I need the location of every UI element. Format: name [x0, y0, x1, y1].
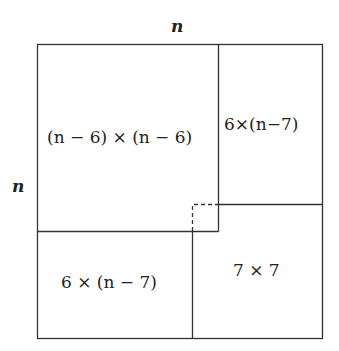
outer-square [38, 45, 323, 339]
dashed-corner [193, 205, 219, 232]
left-side-label: n [12, 178, 24, 195]
region-bottom-left-label: 6 × (n − 7) [61, 274, 157, 291]
region-bottom-right-label: 7 × 7 [233, 262, 280, 279]
region-top-left-label: (n − 6) × (n − 6) [47, 129, 192, 146]
region-top-right-label: 6×(n−7) [224, 116, 298, 133]
top-side-label: n [171, 18, 183, 35]
square-decomposition-diagram [0, 0, 339, 351]
